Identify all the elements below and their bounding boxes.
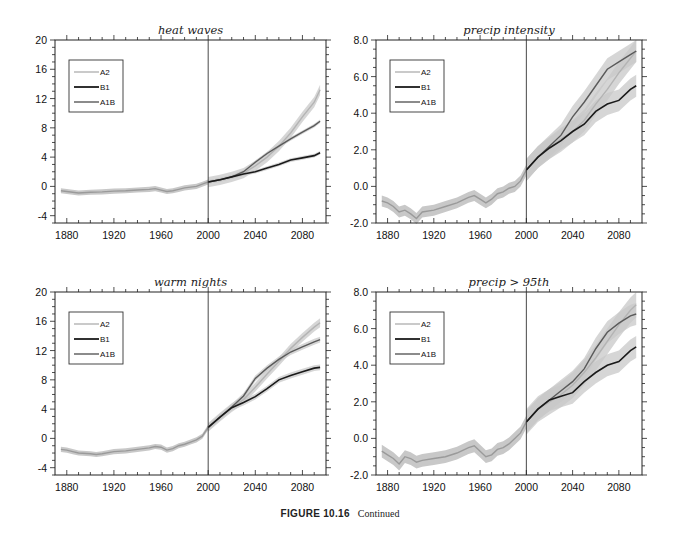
x-tick-label: 2000 [196, 481, 220, 493]
legend-label-a1b: A1B [421, 350, 436, 359]
x-tick-label: 1960 [468, 481, 492, 493]
legend-label-b1: B1 [100, 335, 110, 344]
y-tick-label: -4 [38, 462, 47, 474]
legend: A2B1A1B [390, 60, 444, 112]
x-tick-label: 2080 [291, 229, 315, 241]
y-tick-label: 20 [35, 34, 47, 46]
panel-title: precip intensity [463, 23, 555, 37]
y-tick-label: -2.0 [350, 469, 368, 481]
y-tick-label: 4 [41, 403, 47, 415]
y-tick-label: 12 [35, 93, 47, 105]
y-tick-label: 4.0 [353, 359, 368, 371]
x-tick-label: 1880 [376, 229, 400, 241]
panel-title: warm nights [154, 275, 227, 289]
x-tick-label: 1960 [149, 229, 173, 241]
y-tick-label: 8.0 [353, 34, 368, 46]
warm-nights-panel: warm nights188019201960200020402080-4048… [35, 275, 331, 493]
y-tick-label: 8 [41, 374, 47, 386]
series-band-b1 [526, 75, 636, 181]
y-tick-label: -2.0 [350, 217, 368, 229]
y-tick-label: 20 [35, 286, 47, 298]
x-tick-label: 2040 [561, 481, 585, 493]
figure-10-16: heat waves188019201960200020402080-40481… [0, 0, 680, 541]
y-tick-label: 0 [41, 180, 47, 192]
historical-band [382, 164, 527, 223]
x-tick-label: 2040 [244, 229, 268, 241]
y-tick-label: 12 [35, 345, 47, 357]
x-tick-label: 1880 [55, 229, 79, 241]
legend-label-a2: A2 [100, 320, 110, 329]
x-tick-label: 2080 [607, 229, 631, 241]
precip-intensity-panel: precip intensity188019201960200020402080… [350, 23, 647, 241]
heat-waves-panel: heat waves188019201960200020402080-40481… [35, 23, 331, 241]
x-tick-label: 2000 [515, 229, 539, 241]
x-tick-label: 2040 [244, 481, 268, 493]
x-tick-label: 2040 [561, 229, 585, 241]
x-tick-label: 2000 [515, 481, 539, 493]
y-tick-label: 0.0 [353, 432, 368, 444]
x-tick-label: 1960 [468, 229, 492, 241]
figure-caption: FIGURE 10.16Continued [0, 508, 680, 519]
x-tick-label: 1880 [376, 481, 400, 493]
figure-label: FIGURE 10.16 [281, 508, 350, 519]
y-tick-label: 8.0 [353, 286, 368, 298]
y-tick-label: 4 [41, 151, 47, 163]
legend-label-a1b: A1B [100, 350, 115, 359]
y-tick-label: 0.0 [353, 180, 368, 192]
y-tick-label: 2.0 [353, 396, 368, 408]
y-tick-label: 16 [35, 63, 47, 75]
y-tick-label: 2.0 [353, 144, 368, 156]
legend: A2B1A1B [69, 60, 123, 112]
x-tick-label: 1960 [149, 481, 173, 493]
series-band-a2 [208, 85, 320, 187]
y-tick-label: 0 [41, 432, 47, 444]
x-tick-label: 2080 [291, 481, 315, 493]
x-tick-label: 1920 [422, 229, 446, 241]
historical-line [61, 427, 208, 454]
y-tick-label: 6.0 [353, 323, 368, 335]
legend-label-b1: B1 [421, 83, 431, 92]
historical-band [61, 425, 208, 457]
historical-band [382, 416, 527, 471]
x-tick-label: 1880 [55, 481, 79, 493]
panel-title: precip > 95th [469, 275, 550, 289]
panel-title: heat waves [158, 23, 223, 37]
y-tick-label: -4 [38, 210, 47, 222]
x-tick-label: 1920 [102, 229, 126, 241]
legend-label-b1: B1 [100, 83, 110, 92]
x-tick-label: 1920 [422, 481, 446, 493]
legend-label-a2: A2 [421, 320, 431, 329]
legend-label-a1b: A1B [421, 98, 436, 107]
y-tick-label: 16 [35, 315, 47, 327]
legend-label-b1: B1 [421, 335, 431, 344]
legend: A2B1A1B [390, 312, 444, 364]
x-tick-label: 2000 [196, 229, 220, 241]
y-tick-label: 8 [41, 122, 47, 134]
figure-caption-text: Continued [358, 508, 400, 519]
legend-label-a1b: A1B [100, 98, 115, 107]
precip-95th-panel: precip > 95th188019201960200020402080-2.… [350, 275, 647, 493]
legend-label-a2: A2 [100, 68, 110, 77]
legend: A2B1A1B [69, 312, 123, 364]
y-tick-label: 4.0 [353, 107, 368, 119]
x-tick-label: 2080 [607, 481, 631, 493]
x-tick-label: 1920 [102, 481, 126, 493]
y-tick-label: 6.0 [353, 71, 368, 83]
legend-label-a2: A2 [421, 68, 431, 77]
